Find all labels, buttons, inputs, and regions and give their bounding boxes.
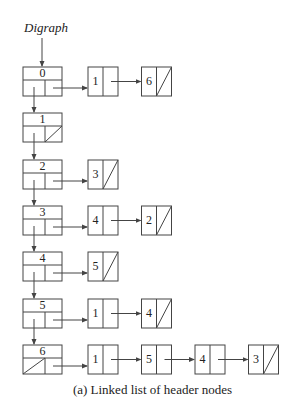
null-next-pointer-slash — [157, 299, 172, 328]
null-next-pointer-slash — [157, 206, 172, 235]
header-node-label: 4 — [23, 252, 62, 265]
null-next-pointer-slash — [103, 160, 118, 189]
null-right-pointer-slash — [45, 126, 62, 142]
list-node-label: 6 — [142, 67, 157, 96]
header-node-label: 3 — [23, 206, 62, 219]
list-node-label: 3 — [88, 160, 103, 189]
list-node-label: 2 — [142, 206, 157, 235]
list-node-label: 1 — [88, 345, 103, 374]
list-node-label: 4 — [142, 299, 157, 328]
list-node-label: 4 — [195, 345, 210, 374]
list-node-label: 5 — [142, 345, 157, 374]
list-node-label: 4 — [88, 206, 103, 235]
header-node-label: 6 — [23, 345, 62, 358]
header-node-label: 5 — [23, 299, 62, 312]
list-node-label: 1 — [88, 67, 103, 96]
digraph-linked-list-diagram: Digraph 0161233424551461543 (a) Linked l… — [0, 0, 289, 410]
list-node-label: 3 — [249, 345, 264, 374]
null-next-pointer-slash — [103, 252, 118, 281]
null-next-pointer-slash — [157, 67, 172, 96]
header-node-label: 2 — [23, 160, 62, 173]
list-node-label: 1 — [88, 299, 103, 328]
header-node-label: 0 — [23, 67, 62, 80]
null-down-pointer-slash — [23, 358, 45, 374]
figure-caption: (a) Linked list of header nodes — [0, 382, 289, 398]
null-next-pointer-slash — [264, 345, 279, 374]
list-node-label: 5 — [88, 252, 103, 281]
header-node-label: 1 — [23, 113, 62, 126]
